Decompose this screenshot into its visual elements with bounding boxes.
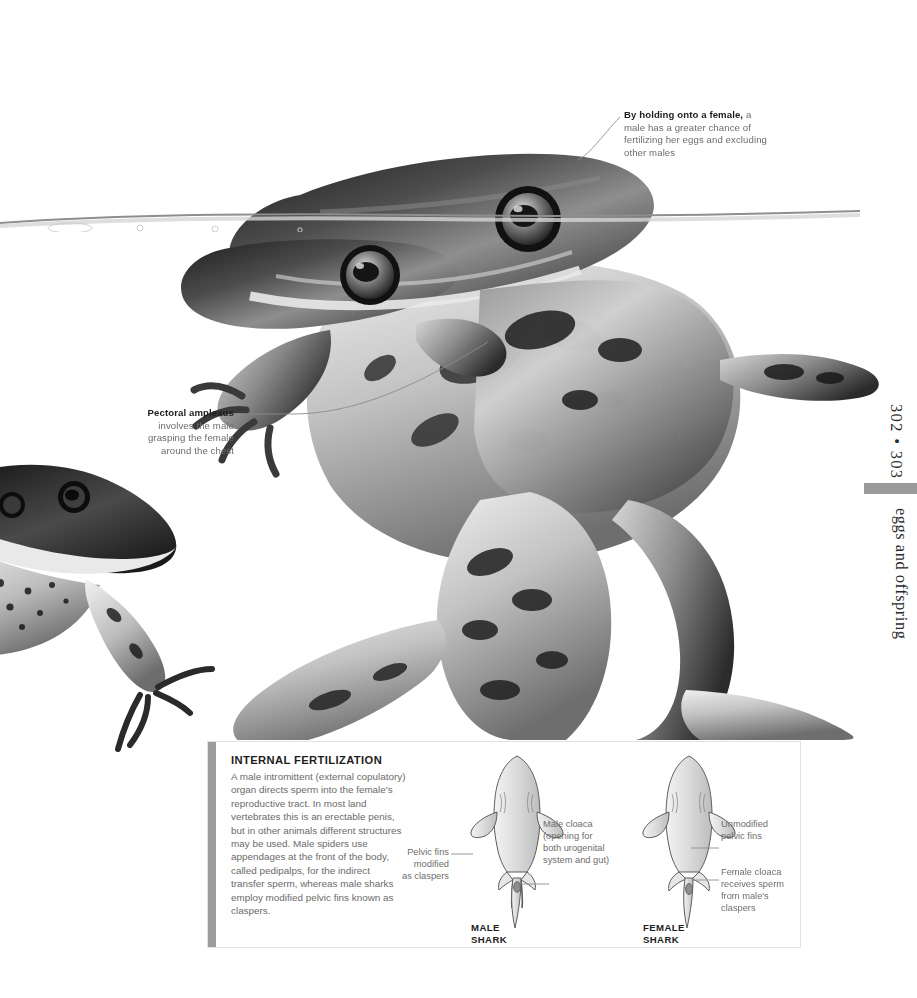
folio-numbers-text: 302 • 303 — [886, 404, 906, 479]
frog-photograph-stage: By holding onto a female, a male has a g… — [0, 0, 917, 760]
folio-accent-bar — [864, 483, 917, 494]
panel-body-text: A male intromittent (external copulatory… — [231, 770, 406, 917]
annotation-pectoral-amplexus: Pectoral amplexus involves the male gras… — [128, 407, 234, 457]
book-page-spread: By holding onto a female, a male has a g… — [0, 0, 917, 998]
annotation-holding-female-heading: By holding onto a female, — [624, 109, 743, 120]
label-pelvic-fins-claspers: Pelvic fins modified as claspers — [371, 846, 449, 882]
panel-content: INTERNAL FERTILIZATION A male intromitte… — [216, 742, 800, 947]
panel-title: INTERNAL FERTILIZATION — [231, 754, 406, 766]
female-shark-caption: FEMALE SHARK — [643, 922, 685, 945]
label-male-cloaca: Male cloaca (opening for both urogenital… — [543, 818, 621, 866]
annotation-holding-female: By holding onto a female, a male has a g… — [624, 109, 772, 159]
internal-fertilization-panel: INTERNAL FERTILIZATION A male intromitte… — [207, 741, 801, 948]
male-shark-caption: MALE SHARK — [471, 922, 507, 945]
annotation-pectoral-amplexus-body: involves the male grasping the female ar… — [148, 420, 234, 456]
panel-accent-bar — [208, 742, 216, 947]
label-female-cloaca: Female cloaca receives sperm from male's… — [721, 866, 803, 914]
chapter-title-text: eggs and offspring — [891, 508, 911, 639]
label-unmodified-pelvic-fins: Unmodified pelvic fins — [721, 818, 799, 842]
shark-fertilization-diagram: MALE SHARK — [411, 746, 803, 946]
annotation-pectoral-amplexus-heading: Pectoral amplexus — [148, 407, 234, 418]
folio-page-numbers: 302 • 303 — [881, 404, 911, 483]
approaching-frog-photo — [0, 455, 220, 755]
frog-pair-photo — [180, 100, 880, 740]
panel-text-column: INTERNAL FERTILIZATION A male intromitte… — [231, 754, 406, 917]
